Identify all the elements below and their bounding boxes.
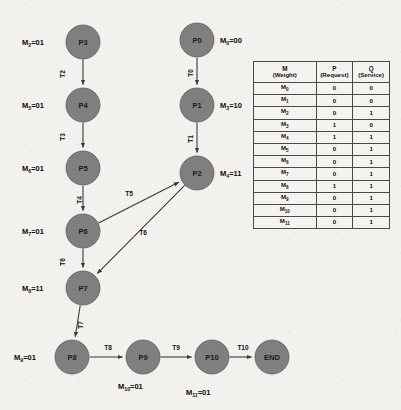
table-body: M000M100M201M310M411M501M601M701M811M901… — [254, 83, 390, 229]
node-P9[interactable]: P9 — [126, 340, 160, 374]
table-row: M000 — [254, 83, 390, 95]
marking-label-m10: M10=01 — [118, 382, 143, 393]
cell-service-11: 1 — [353, 217, 390, 229]
node-P5[interactable]: P5 — [66, 151, 100, 185]
marking-label-m11: M11=01 — [186, 388, 210, 399]
table-header-row: M(Weight) P(Request) Q(Service) — [254, 62, 390, 83]
edge-label-T7: T7 — [77, 321, 84, 329]
marking-label-m2: M2=01 — [22, 38, 44, 49]
cell-request-9: 0 — [316, 192, 353, 204]
node-label-P0: P0 — [192, 36, 201, 45]
edge-label-T6: T6 — [139, 229, 147, 236]
cell-weight-6: M6 — [254, 156, 317, 168]
marking-label-m5: M5=01 — [22, 101, 44, 112]
edge-label-T1: T1 — [187, 135, 194, 143]
cell-weight-8: M8 — [254, 180, 317, 192]
cell-weight-10: M10 — [254, 204, 317, 216]
table-row: M601 — [254, 156, 390, 168]
node-label-P1: P1 — [192, 101, 201, 110]
node-P6[interactable]: P6 — [66, 214, 100, 248]
cell-weight-11: M11 — [254, 217, 317, 229]
cell-request-4: 1 — [316, 131, 353, 143]
cell-request-6: 0 — [316, 156, 353, 168]
cell-weight-4: M4 — [254, 131, 317, 143]
cell-request-8: 1 — [316, 180, 353, 192]
node-label-P6: P6 — [78, 227, 87, 236]
edge-label-T0: T0 — [187, 69, 194, 77]
cell-request-3: 1 — [316, 119, 353, 131]
edge-label-T2: T2 — [59, 70, 66, 78]
node-P0[interactable]: P0 — [180, 23, 214, 57]
node-label-END: END — [264, 353, 280, 362]
cell-request-10: 0 — [316, 204, 353, 216]
node-P10[interactable]: P10 — [195, 340, 229, 374]
cell-service-7: 1 — [353, 168, 390, 180]
marking-label-m8: M8=11 — [22, 284, 43, 295]
cell-service-4: 1 — [353, 131, 390, 143]
cell-service-1: 0 — [353, 95, 390, 107]
table-header-p: P(Request) — [316, 62, 353, 83]
cell-service-2: 1 — [353, 107, 390, 119]
marking-label-m0: M0=00 — [220, 36, 242, 47]
cell-service-6: 1 — [353, 156, 390, 168]
cell-request-5: 0 — [316, 143, 353, 155]
node-label-P8: P8 — [67, 353, 76, 362]
table-row: M310 — [254, 119, 390, 131]
cell-service-3: 0 — [353, 119, 390, 131]
cell-service-0: 0 — [353, 83, 390, 95]
marking-label-m7: M7=01 — [22, 227, 44, 238]
cell-service-9: 1 — [353, 192, 390, 204]
marking-label-m9: M9=01 — [14, 353, 36, 364]
edge-T5 — [99, 182, 179, 223]
marking-label-m6: M6=01 — [22, 164, 44, 175]
table-row: M1101 — [254, 217, 390, 229]
edge-T7 — [75, 305, 80, 336]
node-label-P10: P10 — [205, 353, 218, 362]
edge-label-T9: T9 — [172, 344, 180, 351]
cell-request-1: 0 — [316, 95, 353, 107]
node-END[interactable]: END — [255, 340, 289, 374]
edge-label-T10: T10 — [237, 344, 249, 351]
cell-weight-0: M0 — [254, 83, 317, 95]
cell-weight-7: M7 — [254, 168, 317, 180]
table-row: M501 — [254, 143, 390, 155]
cell-weight-2: M2 — [254, 107, 317, 119]
table-header-m: M(Weight) — [254, 62, 317, 83]
edge-label-T3: T3 — [59, 133, 66, 141]
node-P2[interactable]: P2 — [180, 156, 214, 190]
cell-weight-5: M5 — [254, 143, 317, 155]
node-label-P2: P2 — [192, 169, 201, 178]
table-row: M100 — [254, 95, 390, 107]
node-P4[interactable]: P4 — [66, 88, 100, 122]
edge-label-T4: T4 — [76, 196, 83, 204]
cell-request-0: 0 — [316, 83, 353, 95]
cell-request-7: 0 — [316, 168, 353, 180]
cell-weight-3: M3 — [254, 119, 317, 131]
cell-weight-1: M1 — [254, 95, 317, 107]
node-label-P5: P5 — [78, 164, 87, 173]
table-row: M901 — [254, 192, 390, 204]
cell-service-5: 1 — [353, 143, 390, 155]
node-label-P4: P4 — [78, 101, 88, 110]
node-P7[interactable]: P7 — [66, 271, 100, 305]
edge-label-T8: T8 — [104, 344, 112, 351]
table-row: M411 — [254, 131, 390, 143]
node-label-P7: P7 — [78, 284, 87, 293]
marking-label-m4: M4=11 — [220, 169, 241, 180]
node-label-P3: P3 — [78, 38, 87, 47]
cell-request-2: 0 — [316, 107, 353, 119]
marking-label-m3: M3=10 — [220, 101, 242, 112]
cell-weight-9: M9 — [254, 192, 317, 204]
table-row: M701 — [254, 168, 390, 180]
table-row: M1001 — [254, 204, 390, 216]
node-label-P9: P9 — [138, 353, 147, 362]
node-P1[interactable]: P1 — [180, 88, 214, 122]
node-P8[interactable]: P8 — [55, 340, 89, 374]
cell-service-8: 1 — [353, 180, 390, 192]
weight-request-service-table: M(Weight) P(Request) Q(Service) M000M100… — [253, 61, 390, 229]
table-header-q: Q(Service) — [353, 62, 390, 83]
node-P3[interactable]: P3 — [66, 25, 100, 59]
table-row: M811 — [254, 180, 390, 192]
cell-request-11: 0 — [316, 217, 353, 229]
edge-label-T5: T5 — [125, 190, 133, 197]
